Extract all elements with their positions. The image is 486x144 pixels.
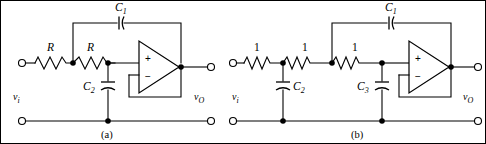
label-b-vi: vi [232, 91, 239, 105]
opamp-b-minus-sign: − [415, 71, 421, 82]
label-b-c3: C3 [357, 80, 369, 95]
resistor-b-r1 [244, 57, 283, 69]
resistor-b-r2 [283, 57, 332, 69]
resistor-a-r1 [35, 57, 73, 69]
label-a-vo: vO [194, 91, 204, 105]
resistor-b-r3 [332, 57, 382, 69]
label-a-r2: R [86, 41, 94, 53]
circuit-b-group: 1 1 1 C1 C2 C3 + − [230, 1, 482, 141]
node-b-ground-c3 [379, 118, 385, 124]
node-b-output [448, 64, 454, 70]
node-a-output [178, 64, 184, 70]
node-a-ground [105, 118, 111, 124]
opamp-a-minus-sign: − [145, 71, 151, 82]
label-a-c1: C1 [115, 1, 127, 16]
label-b-vo: vO [463, 91, 473, 105]
circuit-diagram-svg: C1 R R C2 + − [1, 1, 486, 144]
label-b-r3: 1 [352, 41, 358, 53]
opamp-a-plus-sign: + [145, 53, 151, 64]
label-a-r1: R [46, 41, 54, 53]
output-terminal-a-top[interactable] [208, 64, 215, 71]
output-terminal-b-bottom[interactable] [475, 118, 482, 125]
input-terminal-a-bottom[interactable] [19, 118, 26, 125]
label-b-r2: 1 [302, 41, 308, 53]
input-terminal-a-top[interactable] [19, 60, 26, 67]
label-a-c2: C2 [83, 80, 95, 95]
label-b-c2: C2 [293, 80, 305, 95]
input-terminal-b-bottom[interactable] [230, 118, 237, 125]
label-b-r1: 1 [254, 41, 260, 53]
wire-b-c1-left [332, 23, 387, 63]
figure-container: C1 R R C2 + − [0, 0, 486, 144]
output-terminal-a-bottom[interactable] [208, 118, 215, 125]
caption-b: (b) [351, 129, 364, 141]
opamp-b [409, 41, 449, 93]
output-terminal-b-top[interactable] [475, 64, 482, 71]
label-b-c1: C1 [385, 1, 397, 16]
label-a-vi: vi [13, 91, 20, 105]
circuit-a-group: C1 R R C2 + − [13, 1, 215, 141]
caption-a: (a) [101, 129, 113, 141]
input-terminal-b-top[interactable] [230, 60, 237, 67]
opamp-b-plus-sign: + [415, 53, 421, 64]
node-b-ground-c2 [280, 118, 286, 124]
opamp-a [139, 41, 179, 93]
